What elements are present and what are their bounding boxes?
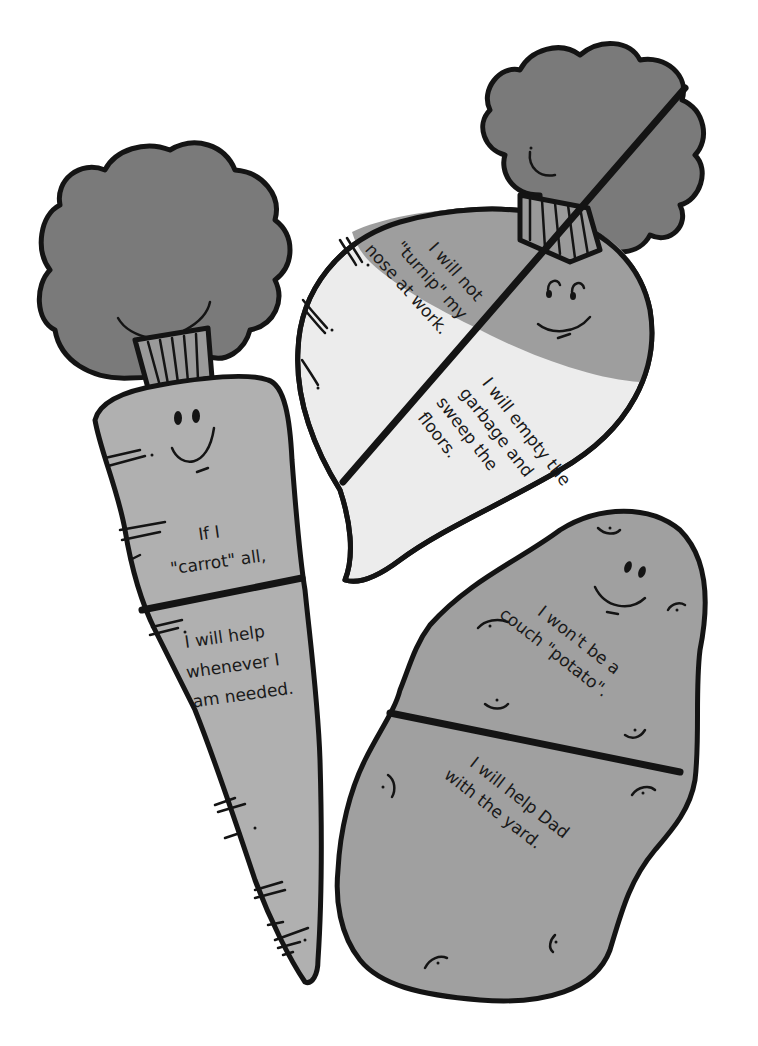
carrot-eye-left (174, 411, 182, 425)
potato: I won't be a couch "potato". I will help… (337, 511, 705, 1001)
potato-body (337, 511, 705, 1001)
svg-text:If I: If I (197, 521, 221, 544)
vegetable-promise-craft: If I "carrot" all, I will help whenever … (0, 0, 758, 1046)
carrot-eye-right (192, 409, 200, 423)
carrot: If I "carrot" all, I will help whenever … (39, 143, 321, 983)
turnip: I will not "turnip" my nose at work. I w… (298, 44, 704, 582)
